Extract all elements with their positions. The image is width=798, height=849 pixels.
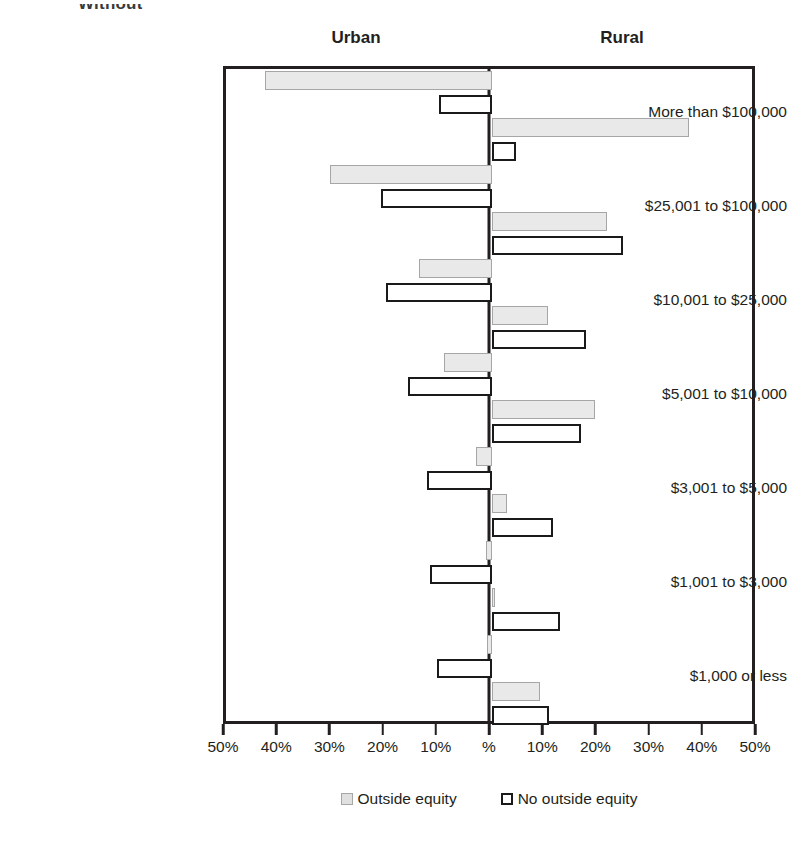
bar-rural-gray [492,494,507,513]
category-label: $3,001 to $5,000 [586,479,798,497]
legend-swatch-icon [501,793,513,805]
x-axis-tick [488,724,491,735]
bar-urban-white [386,283,492,302]
x-axis-tick [435,724,438,735]
bar-rural-white [492,706,549,725]
x-axis-tick [701,724,704,735]
x-axis-tick-label: 30% [314,738,345,756]
bar-rural-white [492,330,586,349]
bar-urban-gray [444,353,492,372]
bar-urban-white [381,189,492,208]
panel-header-urban: Urban [223,28,489,48]
bar-urban-gray [419,259,492,278]
x-axis-tick [647,724,650,735]
bar-urban-white [439,95,492,114]
bar-rural-gray [492,118,689,137]
legend-swatch-icon [341,793,353,805]
x-axis-tick [541,724,544,735]
bar-rural-white [492,612,560,631]
category-label: $5,001 to $10,000 [586,385,798,403]
bar-rural-white [492,424,581,443]
x-axis-tick-label: 40% [261,738,292,756]
category-label: $1,001 to $3,000 [586,573,798,591]
x-axis-tick-label: 40% [686,738,717,756]
bar-urban-gray [486,541,492,560]
bar-urban-white [408,377,492,396]
bar-urban-gray [330,165,492,184]
category-label: $1,000 or less [586,667,798,685]
x-axis-tick-label: 30% [633,738,664,756]
x-axis-tick [222,724,225,735]
chart-legend: Outside equityNo outside equity [223,790,755,808]
x-axis-tick [275,724,278,735]
x-axis-tick [594,724,597,735]
bar-rural-white [492,518,553,537]
x-axis-tick-label: 20% [367,738,398,756]
x-axis-tick-label: 10% [420,738,451,756]
x-axis-tick [754,724,757,735]
legend-item-no_outside_equity[interactable]: No outside equity [501,790,638,808]
bar-urban-gray [476,447,492,466]
x-axis-tick [328,724,331,735]
bar-urban-white [427,471,492,490]
bar-urban-white [437,659,492,678]
x-axis-tick-label: 10% [527,738,558,756]
bar-urban-gray [265,71,492,90]
bar-rural-gray [492,400,595,419]
x-axis-tick-label: % [482,738,496,756]
bar-rural-white [492,236,623,255]
legend-label: Outside equity [358,790,457,808]
legend-item-outside_equity[interactable]: Outside equity [341,790,457,808]
bar-rural-gray [492,212,607,231]
category-label: $25,001 to $100,000 [586,197,798,215]
x-axis-tick-label: 50% [207,738,238,756]
legend-label: No outside equity [518,790,638,808]
bar-urban-gray [487,635,492,654]
bar-rural-gray [492,306,548,325]
x-axis: 50%40%30%20%10%%10%20%30%40%50% [223,724,755,725]
bar-rural-gray [492,588,495,607]
x-axis-tick-label: 20% [580,738,611,756]
chart-root: Without Urban Rural More than $100,000$2… [0,0,798,849]
category-label: $10,001 to $25,000 [586,291,798,309]
x-axis-tick [381,724,384,735]
bar-rural-white [492,142,516,161]
panel-header-rural: Rural [489,28,755,48]
bar-rural-gray [492,682,540,701]
partial-title: Without [78,0,143,14]
bar-urban-white [430,565,492,584]
x-axis-tick-label: 50% [739,738,770,756]
